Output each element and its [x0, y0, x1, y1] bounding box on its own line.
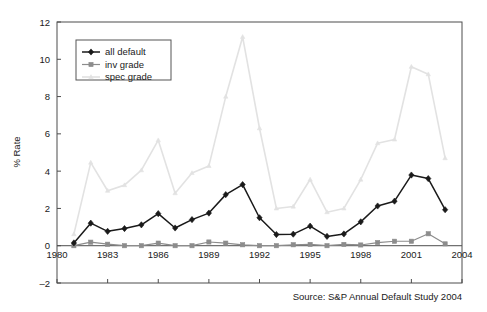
data-point-marker	[122, 244, 126, 248]
x-tick-label: 2004	[451, 249, 472, 260]
y-tick-label: 6	[45, 128, 50, 139]
source-note: Source: S&P Annual Default Study 2004	[293, 291, 462, 302]
data-point-marker	[409, 239, 413, 243]
x-tick-label: 1992	[249, 249, 270, 260]
data-point-marker	[190, 244, 194, 248]
data-point-marker	[392, 239, 396, 243]
y-tick-label: 2	[45, 203, 50, 214]
y-tick-label: 12	[39, 17, 50, 28]
data-point-marker	[325, 244, 329, 248]
data-point-marker	[308, 242, 312, 246]
data-point-marker	[156, 241, 160, 245]
legend-label-inv-grade: inv grade	[105, 59, 144, 70]
data-point-marker	[426, 232, 430, 236]
y-axis-title: % Rate	[11, 136, 22, 167]
x-tick-label: 1998	[350, 249, 371, 260]
y-tick-label: 8	[45, 91, 50, 102]
x-tick-label: 1980	[46, 249, 67, 260]
data-point-marker	[89, 240, 93, 244]
data-point-marker	[207, 240, 211, 244]
data-point-marker	[342, 242, 346, 246]
data-point-marker	[274, 244, 278, 248]
y-tick-label: –2	[39, 278, 50, 289]
y-tick-label: 4	[45, 166, 50, 177]
x-tick-label: 1995	[300, 249, 321, 260]
x-tick-label: 1989	[198, 249, 219, 260]
data-point-marker	[224, 241, 228, 245]
data-point-marker	[241, 243, 245, 247]
data-point-marker	[443, 242, 447, 246]
data-point-marker	[106, 242, 110, 246]
data-point-marker	[139, 244, 143, 248]
data-point-marker	[173, 244, 177, 248]
y-tick-label: 10	[39, 54, 50, 65]
x-tick-label: 2001	[401, 249, 422, 260]
legend-label-spec-grade: spec grade	[105, 71, 152, 82]
x-tick-label: 1983	[97, 249, 118, 260]
default-rate-line-chart: –2024681012 1980198319861989199219951998…	[0, 0, 487, 312]
chart-figure: –2024681012 1980198319861989199219951998…	[0, 0, 487, 312]
data-point-marker	[89, 62, 93, 66]
data-point-marker	[257, 244, 261, 248]
legend-label-all-default: all default	[105, 46, 146, 57]
x-tick-label: 1986	[148, 249, 169, 260]
data-point-marker	[359, 243, 363, 247]
data-point-marker	[376, 240, 380, 244]
data-point-marker	[291, 243, 295, 247]
chart-legend: all defaultinv gradespec grade	[76, 40, 171, 82]
